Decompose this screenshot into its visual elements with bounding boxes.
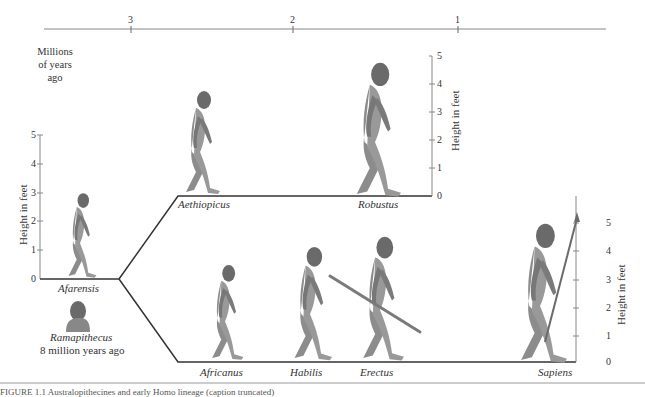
left-axis-tick-1: 1 xyxy=(31,244,36,255)
left-axis-tick-2: 2 xyxy=(31,215,36,226)
lower-axis-tick-3: 3 xyxy=(606,274,611,285)
robustus-figure xyxy=(357,63,401,197)
ramapithecus-label: Ramapithecus xyxy=(50,331,112,343)
sapiens-figure xyxy=(521,224,567,363)
upper-axis-tick-0: 0 xyxy=(437,190,442,201)
timeline-tick-3: 3 xyxy=(128,14,133,25)
lower-axis-tick-2: 2 xyxy=(606,302,611,313)
left-axis-title: Height in feet xyxy=(17,175,29,245)
lower-axis-tick-5: 5 xyxy=(606,217,611,228)
timeline-axis-label: Millions of years ago xyxy=(30,45,80,84)
aethiopicus-figure xyxy=(186,91,220,194)
habilis-label: Habilis xyxy=(290,366,322,378)
sapiens-label: Sapiens xyxy=(538,366,572,378)
upper-axis-tick-1: 1 xyxy=(437,162,442,173)
upper-axis-title: Height in feet xyxy=(449,81,461,151)
figure-caption: FIGURE 1.1 Australopithecines and early … xyxy=(0,387,274,397)
aethiopicus-label: Aethiopicus xyxy=(178,198,230,210)
africanus-figure xyxy=(212,265,243,360)
ramapithecus-figure xyxy=(66,301,90,332)
left-axis-tick-4: 4 xyxy=(31,158,36,169)
robustus-label: Robustus xyxy=(358,198,398,210)
left-axis-tick-3: 3 xyxy=(31,187,36,198)
erectus-label: Erectus xyxy=(360,366,393,378)
lower-axis-tick-1: 1 xyxy=(606,330,611,341)
ramapithecus-age: 8 million years ago xyxy=(40,344,125,356)
upper-axis-tick-2: 2 xyxy=(437,134,442,145)
left-axis-tick-5: 5 xyxy=(31,129,36,140)
timeline-tick-2: 2 xyxy=(290,14,295,25)
lower-axis-tick-0: 0 xyxy=(606,356,611,367)
lower-axis-tick-4: 4 xyxy=(606,245,611,256)
timeline-tick-1: 1 xyxy=(455,14,460,25)
habilis-figure xyxy=(295,247,332,360)
erectus-figure xyxy=(363,237,404,361)
lower-axis-title: Height in feet xyxy=(615,255,627,325)
upper-axis-tick-3: 3 xyxy=(437,106,442,117)
africanus-label: Africanus xyxy=(200,366,243,378)
upper-axis-tick-4: 4 xyxy=(437,78,442,89)
upper-axis-tick-5: 5 xyxy=(437,50,442,61)
left-axis-tick-0: 0 xyxy=(31,273,36,284)
afarensis-figure xyxy=(69,193,97,277)
afarensis-label: Afarensis xyxy=(58,282,99,294)
